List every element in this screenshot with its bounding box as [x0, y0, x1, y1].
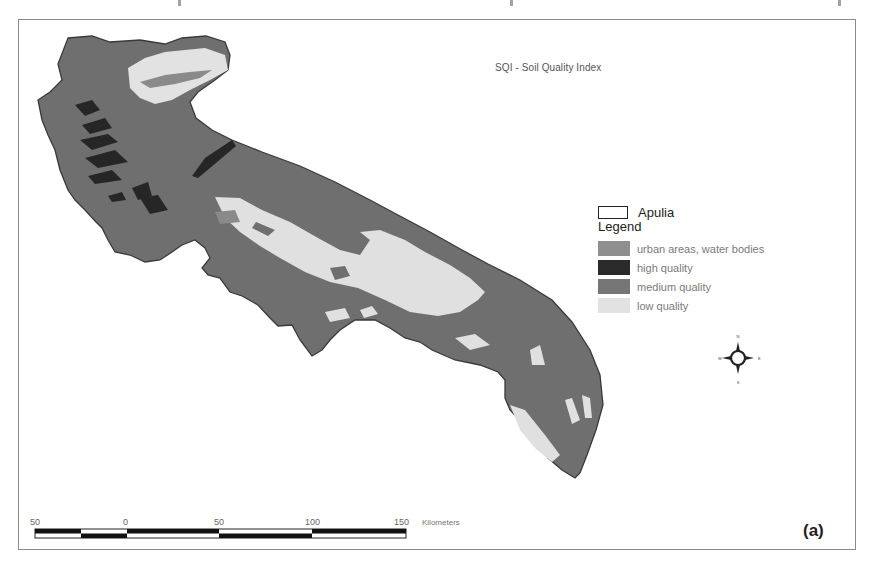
legend-label: high quality — [637, 262, 693, 274]
svg-text:E: E — [758, 356, 761, 361]
legend-item-urban: urban areas, water bodies — [598, 239, 764, 258]
swatch-urban — [598, 241, 630, 256]
legend-label: urban areas, water bodies — [637, 243, 764, 255]
apulia-outline-swatch — [598, 206, 628, 219]
svg-text:N: N — [737, 334, 740, 339]
legend-item-low: low quality — [598, 296, 764, 315]
legend-title: Legend — [598, 219, 764, 235]
legend-outline-entry: Apulia — [598, 204, 764, 220]
panel-label: (a) — [803, 521, 824, 541]
scale-tick-label: 0 — [123, 517, 128, 527]
scale-units-label: Kilometers — [422, 518, 460, 527]
legend-label: medium quality — [637, 281, 711, 293]
apulia-label: Apulia — [638, 205, 674, 220]
legend: Apulia Legend urban areas, water bodies … — [598, 204, 764, 315]
scale-tick-label: 100 — [305, 517, 320, 527]
svg-text:S: S — [737, 380, 740, 385]
legend-label: low quality — [637, 300, 688, 312]
svg-text:W: W — [718, 356, 722, 361]
swatch-medium — [598, 279, 630, 294]
swatch-low — [598, 298, 630, 313]
north-arrow-compass-icon: N S W E — [718, 330, 768, 392]
scale-tick-label: 50 — [214, 517, 224, 527]
scale-tick-label: 150 — [394, 517, 409, 527]
legend-item-high: high quality — [598, 258, 764, 277]
swatch-high — [598, 260, 630, 275]
scale-tick-label: 50 — [30, 517, 40, 527]
map-title: SQI - Soil Quality Index — [495, 62, 601, 73]
legend-item-medium: medium quality — [598, 277, 764, 296]
